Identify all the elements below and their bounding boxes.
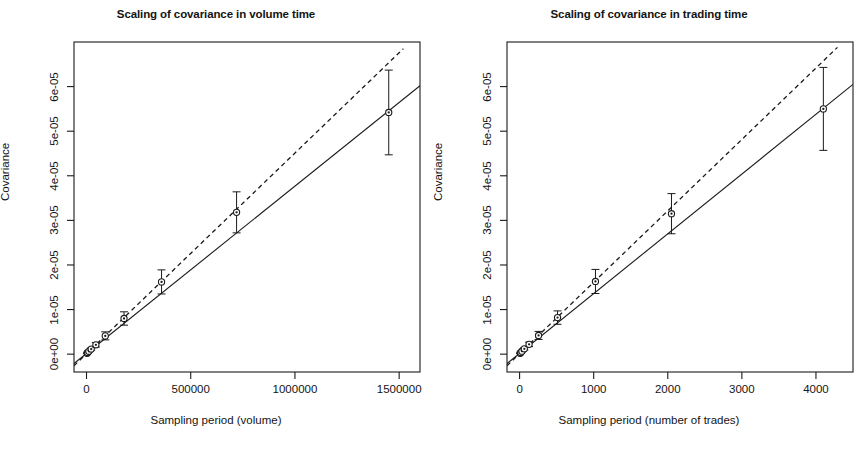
plot-canvas	[433, 0, 865, 451]
figure-root: Scaling of covariance in volume time Sam…	[0, 0, 865, 451]
y-axis-tick-label: 5e-05	[48, 116, 60, 145]
y-axis-tick-label: 1e-05	[481, 295, 493, 324]
data-point-center	[822, 108, 824, 110]
data-point-center	[670, 213, 672, 215]
data-point-center	[388, 111, 390, 113]
y-axis-tick-label: 6e-05	[481, 72, 493, 101]
x-axis-title: Sampling period (volume)	[0, 414, 432, 426]
plot-canvas	[0, 0, 432, 451]
x-axis-tick-label: 1000000	[273, 383, 318, 395]
data-point-center	[160, 281, 162, 283]
y-axis-tick-label: 0e+00	[48, 338, 60, 370]
x-axis-tick-label: 500000	[172, 383, 210, 395]
y-axis-title: Covariance	[432, 143, 444, 201]
data-point-center	[556, 316, 558, 318]
data-point-center	[90, 348, 92, 350]
x-axis-title: Sampling period (number of trades)	[433, 414, 865, 426]
data-point-center	[537, 334, 539, 336]
data-point-center	[523, 348, 525, 350]
data-point-center	[95, 344, 97, 346]
y-axis-tick-label: 2e-05	[48, 250, 60, 279]
y-axis-tick-label: 2e-05	[481, 250, 493, 279]
data-series	[516, 67, 827, 356]
y-axis-title: Covariance	[0, 143, 11, 201]
x-axis-tick-label: 0	[516, 383, 522, 395]
data-point-center	[235, 211, 237, 213]
data-point-center	[104, 335, 106, 337]
chart-panel-volume-time: Scaling of covariance in volume time Sam…	[0, 0, 432, 451]
x-axis-tick-label: 2000	[655, 383, 681, 395]
fitted-scaling-line	[74, 86, 420, 364]
data-point-center	[594, 280, 596, 282]
data-series	[83, 70, 393, 356]
y-axis-tick-label: 6e-05	[48, 72, 60, 101]
x-axis-tick-label: 1000	[581, 383, 607, 395]
y-axis-tick-label: 3e-05	[481, 206, 493, 235]
x-axis-tick-label: 0	[83, 383, 89, 395]
y-axis-tick-label: 4e-05	[481, 161, 493, 190]
y-axis-tick-label: 0e+00	[481, 338, 493, 370]
x-axis-tick-label: 1500000	[377, 383, 422, 395]
fitted-scaling-line	[507, 84, 853, 363]
plot-frame	[507, 42, 853, 372]
x-axis-tick-label: 3000	[729, 383, 755, 395]
x-axis-tick-label: 4000	[803, 383, 829, 395]
y-axis-tick-label: 1e-05	[48, 295, 60, 324]
chart-panel-trading-time: Scaling of covariance in trading time Sa…	[433, 0, 865, 451]
y-axis-tick-label: 4e-05	[48, 161, 60, 190]
y-axis-tick-label: 5e-05	[481, 116, 493, 145]
data-point-center	[528, 343, 530, 345]
y-axis-tick-label: 3e-05	[48, 206, 60, 235]
data-point-center	[123, 317, 125, 319]
